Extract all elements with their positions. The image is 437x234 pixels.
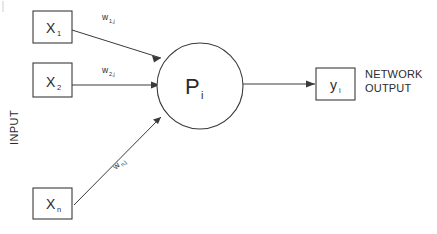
input-group-label: INPUT — [8, 110, 20, 145]
edge-x1-to-neuron — [72, 30, 161, 58]
arrowhead-output — [306, 81, 315, 88]
input-x2-symbol: X — [46, 74, 56, 90]
diagram-canvas: X 1 X 2 X n INPUT w 1,j w 2,j w n,j P i … — [0, 0, 437, 234]
input-x2-subscript: 2 — [57, 83, 61, 92]
weight-wnj-group: w n,j — [110, 155, 128, 173]
weight-w1j-symbol: w — [101, 12, 109, 22]
input-x1-symbol: X — [46, 20, 56, 36]
output-y-symbol: y — [330, 77, 337, 93]
neuron-symbol: P — [185, 74, 200, 99]
neuron-subscript: i — [201, 89, 203, 101]
network-output-label-line1: NETWORK — [365, 68, 423, 80]
arrowhead-xn — [153, 117, 161, 124]
weight-w2j-symbol: w — [101, 65, 109, 75]
network-output-label-line2: OUTPUT — [365, 82, 412, 94]
edge-xn-to-neuron — [74, 117, 161, 205]
input-x1-subscript: 1 — [57, 29, 61, 38]
neural-network-diagram: X 1 X 2 X n INPUT w 1,j w 2,j w n,j P i … — [0, 0, 437, 234]
weight-w2j-subscript: 2,j — [109, 71, 115, 77]
input-xn-symbol: X — [46, 196, 56, 212]
input-xn-subscript: n — [57, 205, 61, 214]
weight-w1j-subscript: 1,j — [109, 18, 115, 24]
neuron-node-circle[interactable] — [157, 43, 243, 129]
